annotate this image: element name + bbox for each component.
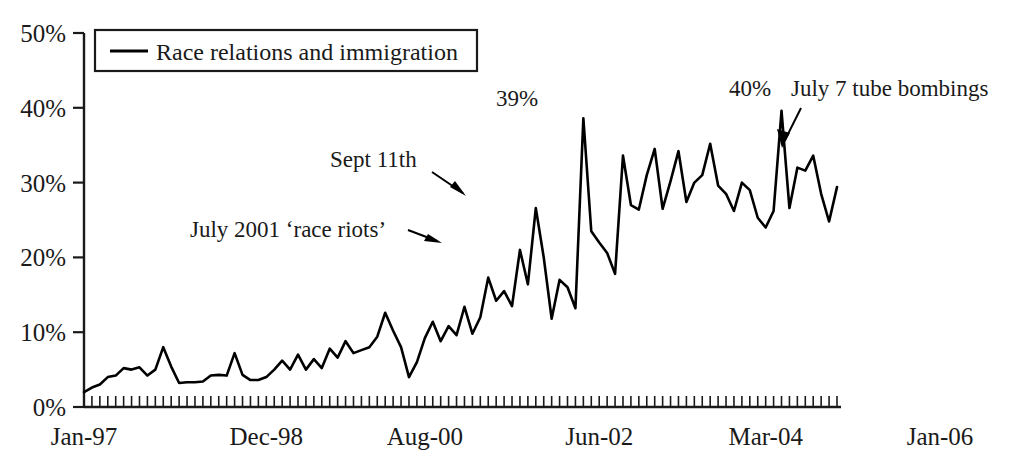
y-tick-label: 50% [20, 20, 66, 47]
x-tick-label: Jan-06 [907, 423, 974, 450]
x-tick-label: Dec-98 [230, 423, 304, 450]
annotation-sept-11th-label: Sept 11th [330, 147, 417, 172]
y-tick-label: 20% [20, 244, 66, 271]
chart-canvas: 0%10%20%30%40%50% Jan-97Dec-98Aug-00Jun-… [0, 0, 1034, 474]
y-tick-label: 10% [20, 319, 66, 346]
annotation-peak-40-label: 40% [729, 76, 771, 101]
annotation-race-riots-label: July 2001 ‘race riots’ [190, 217, 386, 242]
annotation-peak-39-label: 39% [496, 86, 538, 111]
x-tick-label: Jun-02 [565, 423, 633, 450]
x-tick-label: Jan-97 [51, 423, 118, 450]
x-tick-label: Aug-00 [387, 423, 463, 450]
x-tick-label: Mar-04 [728, 423, 803, 450]
annotation-tube-bombings-label: July 7 tube bombings [791, 76, 988, 101]
y-tick-label: 30% [20, 170, 66, 197]
legend: Race relations and immigration [95, 30, 477, 71]
legend-label: Race relations and immigration [156, 39, 458, 65]
line-chart: 0%10%20%30%40%50% Jan-97Dec-98Aug-00Jun-… [0, 0, 1034, 474]
y-tick-label: 40% [20, 95, 66, 122]
y-tick-label: 0% [33, 394, 66, 421]
